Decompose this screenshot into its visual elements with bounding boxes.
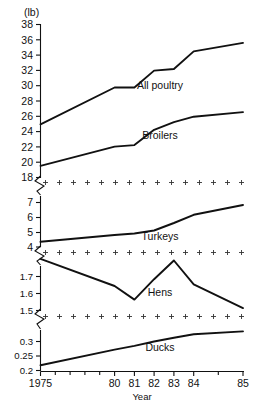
poultry-panel-ticks: [36, 25, 41, 178]
ducks-panel-ticks: [36, 342, 41, 371]
axis-break-dots-2: [43, 250, 244, 255]
axis-break-1: [35, 176, 44, 195]
series-label-hens: Hens: [148, 286, 173, 298]
x-axis-ticks: [41, 372, 244, 377]
xtick-84: 84: [188, 377, 200, 389]
ytick-18: 18: [21, 171, 33, 183]
hens-panel-ticks: [36, 277, 41, 311]
series-label-all-poultry: All poultry: [137, 79, 184, 91]
ytick-28: 28: [21, 95, 33, 107]
ducks-panel-tick-labels: 0.3 0.25 0.2: [14, 336, 33, 376]
hens-panel-tick-labels: 1.7 1.6 1.5: [20, 271, 33, 316]
ytick-4: 4: [27, 241, 33, 253]
poultry-consumption-chart: (lb) 38 36 34 32 30: [0, 0, 257, 406]
axis-break-dots-3: [43, 314, 244, 319]
xtick-1975: 1975: [29, 377, 53, 389]
ytick-32: 32: [21, 64, 33, 76]
xtick-82: 82: [148, 377, 160, 389]
ytick-24: 24: [21, 125, 33, 137]
series-line-hens: [41, 259, 244, 308]
x-axis-tick-labels: 1975 80 81 82 83 84 85: [29, 377, 249, 389]
ytick-26: 26: [21, 110, 33, 122]
axis-break-dots-1: [43, 180, 244, 185]
chart-page: (lb) 38 36 34 32 30: [0, 0, 257, 406]
series-line-ducks: [41, 331, 244, 365]
turkeys-panel-tick-labels: 7 6 5 4: [27, 196, 33, 253]
poultry-panel: 38 36 34 32 30 28 26 24 22 20 18: [21, 18, 243, 183]
ytick-0-2: 0.2: [20, 365, 33, 376]
hens-panel: 1.7 1.6 1.5: [20, 259, 243, 316]
ytick-5: 5: [27, 226, 33, 238]
ytick-0-3: 0.3: [20, 336, 33, 347]
ytick-20: 20: [21, 156, 33, 168]
series-label-ducks: Ducks: [145, 341, 174, 353]
xtick-85: 85: [237, 377, 249, 389]
xtick-80: 80: [109, 377, 121, 389]
series-label-broilers: Broilers: [142, 129, 178, 141]
ytick-1-6: 1.6: [20, 288, 33, 299]
unit-label: (lb): [24, 6, 39, 18]
poultry-panel-tick-labels: 38 36 34 32 30 28 26 24 22 20 18: [21, 18, 33, 183]
ducks-panel: 0.3 0.25 0.2: [14, 330, 243, 376]
series-labels: All poultry Broilers Turkeys Hens Ducks: [137, 79, 184, 353]
ytick-6: 6: [27, 211, 33, 223]
ytick-0-25: 0.25: [14, 350, 33, 361]
ytick-30: 30: [21, 79, 33, 91]
series-label-turkeys: Turkeys: [142, 230, 179, 242]
ytick-7: 7: [27, 196, 33, 208]
ytick-22: 22: [21, 141, 33, 153]
x-axis: 1975 80 81 82 83 84 85 Year: [29, 372, 249, 403]
ytick-1-5: 1.5: [20, 305, 33, 316]
ytick-36: 36: [21, 34, 33, 46]
turkeys-panel-ticks: [36, 203, 41, 248]
ytick-1-7: 1.7: [20, 271, 33, 282]
turkeys-panel: 7 6 5 4: [27, 196, 243, 253]
axis-break-3: [35, 309, 44, 329]
xtick-81: 81: [129, 377, 141, 389]
axis-break-2: [35, 246, 44, 265]
ytick-38: 38: [21, 18, 33, 30]
xtick-83: 83: [168, 377, 180, 389]
ytick-34: 34: [21, 49, 33, 61]
x-axis-title: Year: [132, 391, 151, 402]
